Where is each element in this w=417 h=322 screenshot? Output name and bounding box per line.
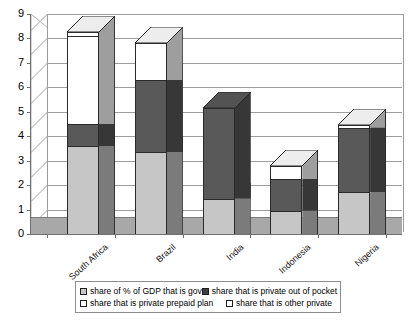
legend-item-other-private[interactable]: share that is other private — [226, 299, 332, 308]
x-tick — [115, 234, 116, 238]
x-axis-line — [30, 234, 402, 235]
legend-swatch-gov — [80, 288, 87, 295]
legend-row-1: share of % of GDP that is gov share that… — [80, 285, 336, 297]
legend-label-out-of-pocket: share that is private out of pocket — [212, 287, 337, 296]
x-tick — [47, 234, 48, 238]
legend-swatch-prepaid — [80, 300, 87, 307]
legend-row-2: share that is private prepaid plan share… — [80, 297, 336, 309]
legend-label-prepaid: share that is private prepaid plan — [90, 299, 213, 308]
x-tick — [250, 234, 251, 238]
legend-label-other-private: share that is other private — [236, 299, 332, 308]
legend-item-prepaid[interactable]: share that is private prepaid plan — [80, 299, 226, 308]
bar-top-cap — [338, 109, 388, 127]
x-tick — [318, 234, 319, 238]
chart-legend: share of % of GDP that is gov share that… — [75, 281, 341, 313]
stacked-bar-chart: 0123456789 South AfricaBrazilIndiaIndone… — [0, 0, 417, 322]
legend-item-gov[interactable]: share of % of GDP that is gov — [80, 287, 202, 296]
legend-item-out-of-pocket[interactable]: share that is private out of pocket — [202, 287, 337, 296]
legend-swatch-out-of-pocket — [202, 288, 209, 295]
x-tick — [386, 234, 387, 238]
bar-segment-divider — [338, 128, 370, 129]
bar-segment — [338, 128, 370, 193]
legend-label-gov: share of % of GDP that is gov — [90, 287, 202, 296]
legend-swatch-other-private — [226, 300, 233, 307]
x-tick — [183, 234, 184, 238]
bar-segment-divider — [338, 192, 370, 193]
bar-segment — [338, 192, 370, 234]
